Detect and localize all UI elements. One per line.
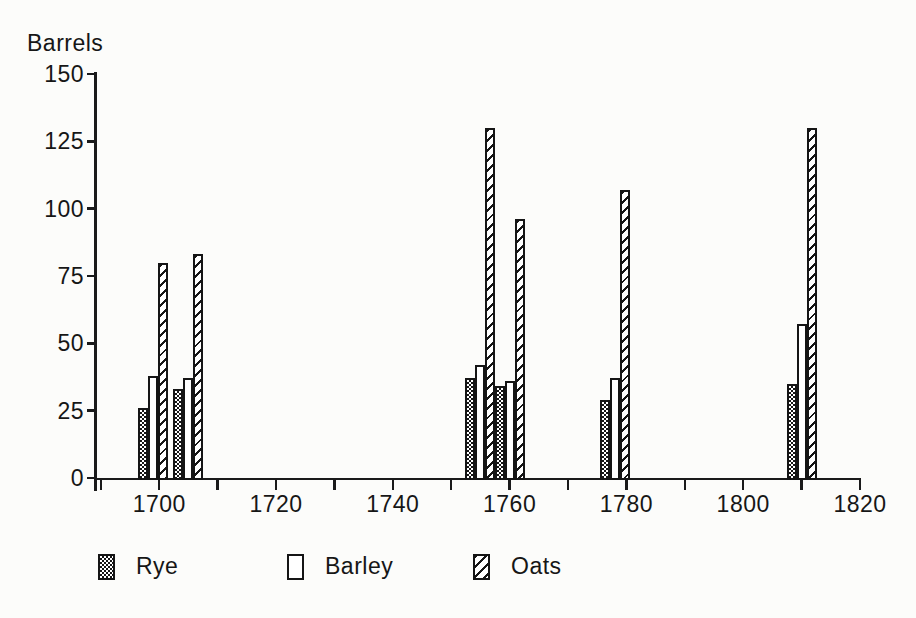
legend-label-oats: Oats — [511, 553, 562, 580]
x-tick-label: 1800 — [717, 492, 770, 516]
bar-rye-1755 — [465, 378, 475, 480]
y-tick-label: 125 — [20, 128, 84, 154]
bar-oats-1778 — [620, 190, 630, 480]
x-tick — [684, 478, 687, 490]
legend-item-rye: Rye — [98, 553, 178, 580]
bar-barley-1699 — [148, 376, 158, 480]
x-tick — [567, 478, 570, 490]
x-tick — [859, 478, 862, 490]
x-tick — [392, 478, 395, 490]
y-tick-label: 150 — [20, 61, 84, 87]
bar-rye-1760 — [495, 386, 505, 480]
chart: Barrels 02550751001251501700172017401760… — [0, 0, 916, 618]
x-tick-label: 1820 — [833, 492, 886, 516]
bar-oats-1699 — [158, 263, 168, 480]
bar-barley-1810 — [797, 324, 807, 480]
legend-item-oats: Oats — [473, 553, 562, 580]
x-tick-label: 1780 — [600, 492, 653, 516]
bar-barley-1778 — [610, 378, 620, 480]
legend-item-barley: Barley — [287, 553, 393, 580]
x-tick — [275, 478, 278, 490]
y-tick — [87, 477, 95, 480]
x-tick — [333, 478, 336, 490]
y-tick-label: 0 — [20, 465, 84, 491]
bar-oats-1705 — [193, 254, 203, 480]
x-tick — [216, 478, 219, 490]
bar-barley-1760 — [505, 381, 515, 480]
y-tick-label: 50 — [20, 330, 84, 356]
y-tick — [87, 342, 95, 345]
y-tick-label: 100 — [20, 196, 84, 222]
x-tick — [742, 478, 745, 490]
bar-barley-1755 — [475, 365, 485, 480]
y-tick-label: 25 — [20, 398, 84, 424]
y-tick — [87, 140, 95, 143]
legend-label-barley: Barley — [325, 553, 393, 580]
x-tick-label: 1740 — [366, 492, 419, 516]
rye-pattern-swatch-icon — [98, 554, 115, 580]
y-tick — [87, 275, 95, 278]
oats-pattern-swatch-icon — [473, 554, 490, 580]
bar-rye-1699 — [138, 408, 148, 480]
x-tick — [100, 478, 103, 490]
bar-barley-1705 — [183, 378, 193, 480]
x-tick-label: 1720 — [249, 492, 302, 516]
barley-pattern-swatch-icon — [287, 554, 304, 580]
bar-rye-1778 — [600, 400, 610, 480]
y-tick-label: 75 — [20, 263, 84, 289]
x-tick-label: 1760 — [483, 492, 536, 516]
x-tick — [450, 478, 453, 490]
y-tick — [87, 409, 95, 412]
bar-oats-1810 — [807, 128, 817, 480]
y-tick — [87, 73, 95, 76]
bar-oats-1760 — [515, 219, 525, 480]
x-tick-label: 1700 — [133, 492, 186, 516]
y-tick — [87, 207, 95, 210]
bar-rye-1705 — [173, 389, 183, 480]
plot-area: 0255075100125150170017201740176017801800… — [0, 0, 916, 618]
legend-label-rye: Rye — [136, 553, 178, 580]
bar-rye-1810 — [787, 384, 797, 480]
